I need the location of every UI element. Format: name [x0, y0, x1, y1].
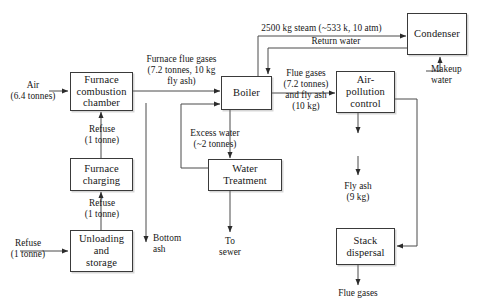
edge-label-furnace-flue-gases: Furnace flue gases (7.2 tonnes, 10 kg fl… [133, 54, 230, 87]
edge-label-return-water: Return water [291, 36, 381, 47]
node-furnace-combustion-chamber[interactable]: Furnace combustion chamber [70, 72, 133, 111]
node-condenser-label: Condenser [412, 28, 462, 40]
node-water-treatment[interactable]: Water Treatment [208, 159, 282, 191]
node-furnace-charging-label: Furnace charging [81, 163, 122, 187]
node-boiler-label: Boiler [231, 87, 262, 99]
edge-apc-to-stack-dispersal [395, 99, 417, 246]
node-condenser[interactable]: Condenser [407, 13, 467, 55]
process-flow-diagram: Furnace combustion chamber Furnace charg… [0, 0, 479, 304]
edge-label-air-input: Air (6.4 tonnes) [4, 80, 62, 102]
edge-label-to-sewer: To sewer [212, 236, 248, 258]
node-unloading-and-storage[interactable]: Unloading and storage [70, 230, 133, 272]
node-stack-dispersal-label: Stack dispersal [344, 235, 386, 259]
node-unloading-and-storage-label: Unloading and storage [77, 233, 126, 268]
edge-label-steam: 2500 kg steam (~533 k, 10 atm) [239, 23, 404, 34]
edge-label-refuse-charging-to-furnace: Refuse (1 tonne) [74, 124, 130, 146]
node-furnace-charging[interactable]: Furnace charging [70, 158, 133, 191]
node-air-pollution-control-label: Air- pollution control [344, 74, 387, 109]
edge-label-refuse-unloading-to-charging: Refuse (1 tonne) [74, 198, 130, 220]
node-air-pollution-control[interactable]: Air- pollution control [336, 71, 395, 113]
edge-label-excess-water: Excess water (~2 tonnes) [178, 128, 252, 150]
node-water-treatment-label: Water Treatment [221, 163, 269, 187]
edge-label-fly-ash-output: Fly ash (9 kg) [332, 181, 384, 203]
node-stack-dispersal[interactable]: Stack dispersal [336, 228, 395, 265]
edge-label-makeup-water: Makeup water [431, 64, 477, 86]
edge-label-flue-gases-output: Flue gases [328, 288, 388, 299]
edge-label-flue-gases-and-fly-ash: Flue gases (7.2 tonnes) and fly ash (10 … [277, 68, 335, 112]
edge-label-bottom-ash: Bottom ash [153, 233, 199, 255]
node-furnace-combustion-chamber-label: Furnace combustion chamber [75, 74, 129, 109]
edge-label-refuse-input: Refuse (1 tonne) [2, 238, 54, 260]
